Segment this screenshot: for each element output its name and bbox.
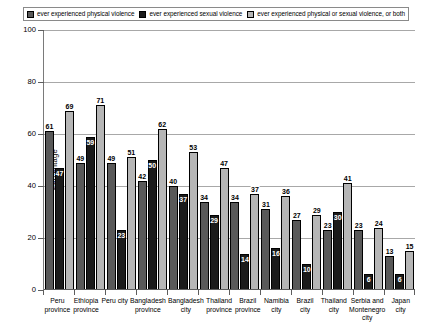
bar-value-label: 49	[76, 155, 85, 163]
bar-value-label: 42	[138, 173, 147, 181]
bar[interactable]: 47	[220, 168, 229, 290]
bar-group: 342947	[199, 30, 230, 290]
x-axis-label-line: city	[320, 306, 347, 315]
bar-value-label: 24	[374, 220, 383, 228]
x-axis-label-line: province	[73, 306, 100, 315]
x-axis-label: Thailandcity	[319, 297, 348, 323]
legend-swatch-icon	[247, 11, 254, 18]
bar[interactable]: 49	[107, 163, 116, 290]
x-axis-label: Bangladeshcity	[167, 297, 205, 323]
chart-legend: ever experienced physical violenceever e…	[23, 7, 409, 21]
bar-value-label: 71	[96, 97, 105, 105]
bar[interactable]: 50	[148, 160, 157, 290]
bar[interactable]: 6	[364, 274, 373, 290]
bar[interactable]: 37	[250, 194, 259, 290]
bar[interactable]: 16	[271, 248, 280, 290]
bar[interactable]: 29	[210, 215, 219, 290]
bar[interactable]: 53	[189, 152, 198, 290]
x-axis-tick	[229, 290, 260, 295]
x-axis-label: Thailandprovince	[205, 297, 234, 323]
x-axis-label: Namibiacity	[262, 297, 291, 323]
bar[interactable]: 10	[302, 264, 311, 290]
bar[interactable]: 13	[385, 256, 394, 290]
bar[interactable]: 47	[55, 168, 64, 290]
bar[interactable]: 34	[200, 202, 209, 290]
x-axis-label-line: Ethiopia	[73, 297, 100, 306]
bar-value-label: 49	[107, 155, 116, 163]
x-axis-tick	[353, 290, 384, 295]
x-axis-label-line: province	[44, 306, 71, 315]
bar-value-label: 13	[385, 248, 394, 256]
bar-group: 13615	[384, 30, 415, 290]
bar[interactable]: 61	[45, 131, 54, 290]
bar[interactable]: 15	[405, 251, 414, 290]
bar[interactable]: 23	[117, 230, 126, 290]
x-axis-tick	[291, 290, 322, 295]
x-axis-label-line: Thailand	[320, 297, 347, 306]
bar[interactable]: 49	[76, 163, 85, 290]
bar[interactable]: 31	[261, 209, 270, 290]
x-axis-labels: PeruprovinceEthiopiaprovincePeru cityBan…	[43, 297, 415, 323]
bar-group: 271029	[291, 30, 322, 290]
bar[interactable]: 23	[323, 230, 332, 290]
y-axis-tick-label: 40	[28, 182, 36, 190]
bar[interactable]: 30	[333, 212, 342, 290]
x-axis-tick	[260, 290, 291, 295]
bar[interactable]: 27	[292, 220, 301, 290]
bar-group: 425062	[137, 30, 168, 290]
bar-group: 492351	[106, 30, 137, 290]
bar[interactable]: 59	[86, 137, 95, 290]
bar-value-label: 27	[292, 212, 301, 220]
bar[interactable]: 42	[138, 181, 147, 290]
bar-value-label: 6	[397, 276, 402, 284]
x-axis-label-line: Serbia and	[349, 297, 385, 306]
bar[interactable]: 36	[281, 196, 290, 290]
legend-item-0: ever experienced physical violence	[27, 10, 134, 18]
bar-value-label: 29	[210, 217, 219, 225]
x-axis-label-line: city	[168, 306, 204, 315]
x-axis-tick	[167, 290, 198, 295]
legend-item-2: ever experienced physical or sexual viol…	[247, 10, 405, 18]
x-axis-label: Peruprovince	[43, 297, 72, 323]
bar-value-label: 29	[312, 207, 321, 215]
bar[interactable]: 29	[312, 215, 321, 290]
bar-value-label: 34	[231, 194, 240, 202]
bar-value-label: 16	[272, 250, 281, 258]
bar[interactable]: 41	[343, 183, 352, 290]
bar[interactable]: 6	[395, 274, 404, 290]
bar[interactable]: 62	[158, 129, 167, 290]
bar[interactable]: 37	[179, 194, 188, 290]
bar-groups: 6147694959714923514250624037533429473414…	[44, 30, 415, 290]
plot-inner: 6147694959714923514250624037533429473414…	[44, 30, 415, 290]
bar-value-label: 23	[117, 232, 126, 240]
bar[interactable]: 71	[96, 105, 105, 290]
bar-group: 233041	[322, 30, 353, 290]
bar[interactable]: 24	[374, 228, 383, 290]
bar[interactable]: 14	[240, 254, 249, 290]
bar-value-label: 23	[323, 222, 332, 230]
bar[interactable]: 23	[354, 230, 363, 290]
x-axis-label-line: city	[263, 306, 290, 315]
bar[interactable]: 34	[230, 202, 239, 290]
bar-value-label: 59	[86, 139, 95, 147]
legend-item-1: ever experienced sexual violence	[139, 10, 242, 18]
bar-value-label: 41	[343, 175, 352, 183]
bar-value-label: 30	[333, 214, 342, 222]
bar-value-label: 47	[220, 160, 229, 168]
legend-label: ever experienced physical violence	[37, 10, 134, 18]
bar-group: 403753	[168, 30, 199, 290]
bar[interactable]: 40	[169, 186, 178, 290]
x-axis-label-line: province	[234, 306, 261, 315]
bar[interactable]: 51	[127, 157, 136, 290]
x-axis-ticks	[43, 290, 415, 295]
x-axis-label-line: Montenegro	[349, 306, 385, 315]
x-axis-label-line: Brazil	[234, 297, 261, 306]
x-axis-label-line: Peru	[44, 297, 71, 306]
y-axis-tick	[38, 238, 44, 239]
x-axis-label: Japan city	[386, 297, 415, 323]
bar-value-label: 47	[55, 170, 64, 178]
bar[interactable]: 69	[65, 111, 74, 290]
bar-value-label: 61	[45, 123, 54, 131]
x-axis-tick	[136, 290, 167, 295]
x-axis-label-line: Namibia	[263, 297, 290, 306]
